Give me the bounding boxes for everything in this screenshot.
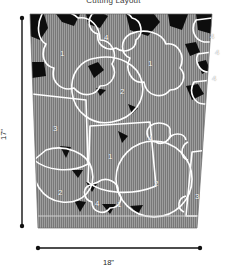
height-dimension-label: 17"	[0, 129, 8, 140]
layout-canvas	[0, 0, 227, 276]
width-dimension-label: 18"	[103, 258, 114, 267]
cutting-layout-diagram: Cutting Layout	[0, 0, 227, 276]
